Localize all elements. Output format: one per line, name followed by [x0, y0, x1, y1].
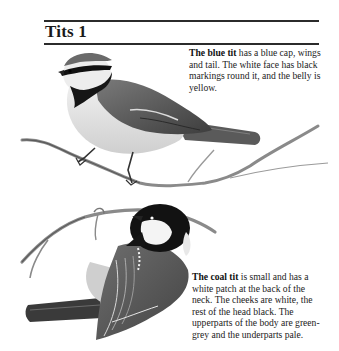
blue-tit-name: The blue tit: [189, 47, 236, 58]
blue-tit-caption: The blue tit has a blue cap, wings and t…: [189, 47, 324, 93]
coal-tit-illustration: [26, 204, 191, 340]
coal-tit-name: The coal tit: [192, 271, 238, 282]
coal-tit-caption: The coal tit is small and has a white pa…: [192, 271, 327, 341]
